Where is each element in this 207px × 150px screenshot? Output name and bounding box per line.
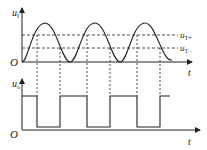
x-axis-label-top: t (188, 67, 191, 78)
output-waveform-panel: uo O t (10, 78, 200, 147)
y-axis-label-bottom: uo (12, 78, 20, 90)
threshold-low-label: uT− (180, 43, 192, 54)
origin-label-top: O (10, 56, 18, 68)
output-square-wave (22, 96, 170, 127)
threshold-high-label: uT+ (180, 30, 192, 41)
y-axis-label-top: uI (12, 7, 19, 19)
projection-lines (37, 35, 160, 96)
schmitt-waveform-diagram: uI O t uT+ uT− uo O t (0, 0, 207, 150)
origin-label-bottom: O (10, 128, 18, 140)
input-sine-wave (22, 23, 172, 62)
x-axis-label-bottom: t (188, 136, 191, 147)
